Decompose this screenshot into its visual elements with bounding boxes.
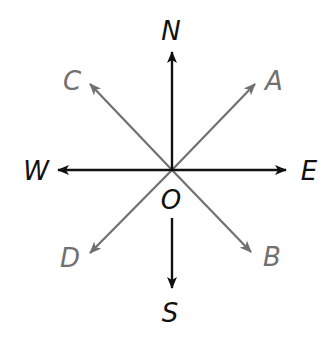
ray-od (90, 170, 172, 253)
label-w: W (23, 156, 50, 186)
label-c: C (63, 66, 82, 96)
label-d: D (60, 243, 80, 273)
ray-ob (172, 170, 251, 252)
label-n: N (161, 16, 180, 46)
label-e: E (301, 156, 318, 186)
compass-diagram: N S W E A C D B O (0, 0, 335, 343)
ray-oa (172, 84, 255, 170)
label-a: A (263, 66, 283, 96)
label-o: O (161, 185, 181, 215)
label-s: S (162, 298, 179, 328)
ray-oc (90, 84, 172, 170)
label-b: B (263, 242, 281, 272)
